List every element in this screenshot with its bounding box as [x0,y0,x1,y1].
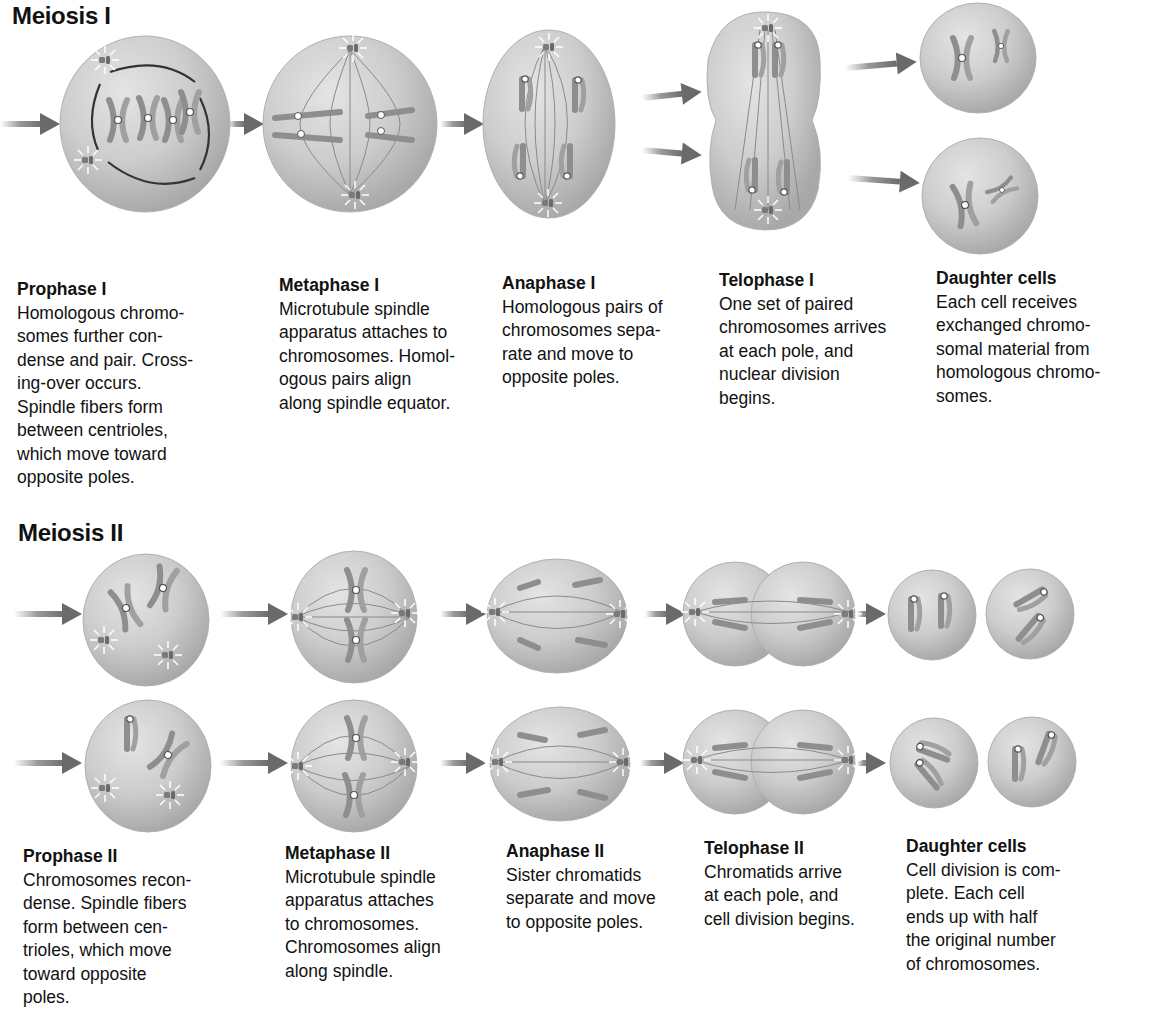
daughter-cell-2b [986,569,1074,659]
caption-prophase-1: Prophase I Homologous chromo- somes furt… [17,278,247,490]
telophase-2-cell-b [683,710,862,814]
caption-body: Chromatids arrive at each pole, and cell… [704,861,909,932]
telophase-1-cell [707,12,820,230]
meiosis-2-title: Meiosis II [18,519,123,547]
caption-body: Microtubule spindle apparatus attaches t… [279,298,494,416]
anaphase-2-cell-b [484,707,637,821]
daughter-cell-1b [922,138,1038,254]
caption-body: One set of paired chromosomes arrives at… [719,293,929,411]
prophase-1-cell [60,36,230,212]
caption-title: Telophase II [704,837,909,861]
daughter-cell-2c [890,718,978,808]
caption-title: Anaphase II [506,840,706,864]
caption-body: Cell division is com- plete. Each cell e… [906,859,1126,977]
caption-telophase-2: Telophase II Chromatids arrive at each p… [704,837,909,931]
caption-title: Telophase I [719,269,929,293]
daughter-cell-2a [888,570,976,660]
metaphase-2-cell-a [284,551,419,683]
anaphase-1-cell [483,30,615,218]
caption-body: Homologous chromo- somes further con- de… [17,302,247,490]
caption-anaphase-1: Anaphase I Homologous pairs of chromosom… [502,272,707,390]
caption-title: Prophase II [23,845,253,869]
caption-body: Each cell receives exchanged chromo- som… [936,291,1156,409]
caption-body: Chromosomes recon- dense. Spindle fibers… [23,869,253,1010]
caption-title: Anaphase I [502,272,707,296]
caption-telophase-1: Telophase I One set of paired chromosome… [719,269,929,410]
caption-metaphase-1: Metaphase I Microtubule spindle apparatu… [279,274,494,415]
caption-body: Homologous pairs of chromosomes sepa- ra… [502,296,707,390]
anaphase-2-cell-a [481,559,634,673]
metaphase-2-cell-b [284,700,419,832]
metaphase-1-cell [263,34,437,212]
caption-body: Sister chromatids separate and move to o… [506,864,706,935]
prophase-2-cell-b [85,700,211,832]
daughter-cell-1a [920,3,1036,113]
caption-daughter-cells-1: Daughter cells Each cell receives exchan… [936,267,1156,408]
caption-prophase-2: Prophase II Chromosomes recon- dense. Sp… [23,845,253,1010]
meiosis-1-title: Meiosis I [12,2,111,30]
caption-anaphase-2: Anaphase II Sister chromatids separate a… [506,840,706,934]
caption-title: Metaphase I [279,274,494,298]
daughter-cell-2d [988,717,1076,807]
caption-title: Prophase I [17,278,247,302]
caption-title: Daughter cells [936,267,1156,291]
caption-body: Microtubule spindle apparatus attaches t… [285,866,495,984]
caption-title: Metaphase II [285,842,495,866]
telophase-2-cell-a [681,562,862,666]
caption-title: Daughter cells [906,835,1126,859]
caption-daughter-cells-2: Daughter cells Cell division is com- ple… [906,835,1126,976]
prophase-2-cell-a [83,554,209,686]
caption-metaphase-2: Metaphase II Microtubule spindle apparat… [285,842,495,983]
